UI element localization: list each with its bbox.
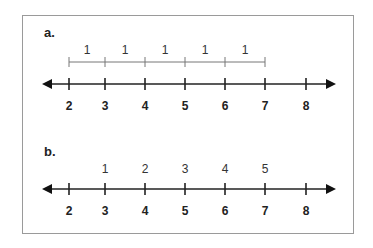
tick-label: 2 xyxy=(59,204,79,218)
right-arrow-icon xyxy=(326,79,336,89)
left-arrow-icon xyxy=(42,79,52,89)
segment-label: 1 xyxy=(195,43,215,57)
tick-label: 8 xyxy=(296,204,316,218)
segment-label: 1 xyxy=(115,43,135,57)
segment-label: 1 xyxy=(155,43,175,57)
count-label: 5 xyxy=(255,162,275,176)
tick-label: 6 xyxy=(215,204,235,218)
right-arrow-icon xyxy=(326,184,336,194)
count-label: 4 xyxy=(215,162,235,176)
tick-label: 4 xyxy=(135,204,155,218)
count-label: 2 xyxy=(135,162,155,176)
tick-label: 3 xyxy=(95,99,115,113)
panel-label-b: b. xyxy=(44,144,56,159)
count-label: 3 xyxy=(175,162,195,176)
tick-label: 8 xyxy=(296,99,316,113)
segment-label: 1 xyxy=(235,43,255,57)
tick-label: 5 xyxy=(175,204,195,218)
tick-label: 2 xyxy=(59,99,79,113)
number-line-b xyxy=(48,183,330,195)
tick-label: 4 xyxy=(135,99,155,113)
segment-label: 1 xyxy=(77,43,97,57)
tick-label: 5 xyxy=(175,99,195,113)
panel-label-a: a. xyxy=(44,25,55,40)
tick-label: 7 xyxy=(255,204,275,218)
left-arrow-icon xyxy=(42,184,52,194)
tick-label: 7 xyxy=(255,99,275,113)
tick-label: 6 xyxy=(215,99,235,113)
number-line-a xyxy=(48,78,330,90)
bracket-a xyxy=(69,57,265,67)
count-label: 1 xyxy=(95,162,115,176)
tick-label: 3 xyxy=(95,204,115,218)
